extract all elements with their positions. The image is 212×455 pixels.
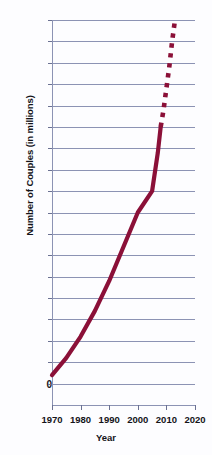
- x-axis-tick: [109, 405, 110, 410]
- plot-area: 0.51.01.52.02.53.03.54.04.55.05.56.06.57…: [52, 20, 195, 405]
- x-axis-tick: [81, 405, 82, 410]
- x-axis-tick: [52, 405, 53, 410]
- x-axis-tick: [138, 405, 139, 410]
- y-axis-title: Number of Couples (in millions): [24, 41, 35, 291]
- y-axis-zero-label: 0: [12, 379, 52, 390]
- data-series-group: [52, 20, 195, 405]
- x-axis-title: Year: [0, 432, 212, 443]
- x-axis-tick-label: 2020: [175, 414, 212, 425]
- x-axis-line: [52, 405, 195, 406]
- data-line-observed: [52, 127, 161, 375]
- x-axis-tick: [195, 405, 196, 410]
- x-axis-tick: [166, 405, 167, 410]
- chart-figure: Number of Couples (in millions) Year 0 0…: [0, 0, 212, 455]
- data-line-projected: [161, 20, 175, 127]
